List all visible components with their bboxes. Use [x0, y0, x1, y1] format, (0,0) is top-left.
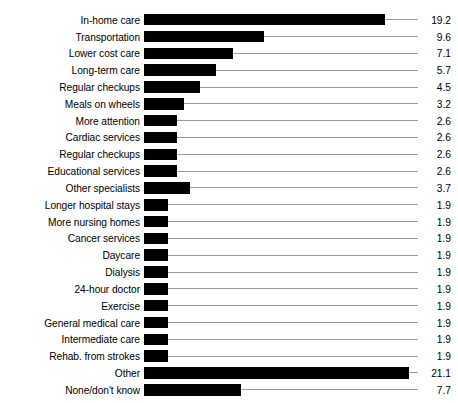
bar: [144, 132, 177, 144]
category-label: Daycare: [102, 250, 140, 261]
value-label: 3.7: [437, 182, 451, 193]
value-label: 2.6: [437, 115, 451, 126]
value-label: 1.9: [437, 300, 451, 311]
category-label: Educational services: [48, 166, 140, 177]
bar: [144, 31, 264, 43]
value-label: 1.9: [437, 283, 451, 294]
bar: [144, 216, 168, 228]
bar: [144, 199, 168, 211]
chart-row: Lower cost care7.1: [0, 45, 458, 62]
chart-row: Transportation9.6: [0, 28, 458, 45]
bar: [144, 283, 168, 295]
leader-line: [144, 204, 418, 205]
category-label: Dialysis: [105, 267, 140, 278]
chart-row: General medical care1.9: [0, 314, 458, 331]
chart-row: Long-term care5.7: [0, 62, 458, 79]
value-label: 1.9: [437, 199, 451, 210]
value-label: 3.2: [437, 98, 451, 109]
leader-line: [144, 221, 418, 222]
category-label: Regular checkups: [59, 82, 140, 93]
bar: [144, 334, 168, 346]
chart-row: Other specialists3.7: [0, 180, 458, 197]
value-label: 1.9: [437, 317, 451, 328]
chart-row: More attention2.6: [0, 112, 458, 129]
value-label: 1.9: [437, 250, 451, 261]
value-label: 9.6: [437, 31, 451, 42]
chart-row: Educational services2.6: [0, 163, 458, 180]
chart-row: Cardiac services2.6: [0, 129, 458, 146]
chart-row: Meals on wheels3.2: [0, 95, 458, 112]
chart-row: Daycare1.9: [0, 247, 458, 264]
value-label: 1.9: [437, 334, 451, 345]
leader-line: [144, 154, 418, 155]
bar: [144, 98, 184, 110]
value-label: 19.2: [431, 14, 451, 25]
chart-row: Intermediate care1.9: [0, 331, 458, 348]
value-label: 1.9: [437, 351, 451, 362]
category-label: None/don't know: [65, 384, 140, 395]
leader-line: [144, 103, 418, 104]
bar: [144, 149, 177, 161]
leader-line: [144, 339, 418, 340]
chart-row: Regular checkups2.6: [0, 146, 458, 163]
bar: [144, 233, 168, 245]
category-label: Long-term care: [72, 65, 140, 76]
chart-row: Dialysis1.9: [0, 264, 458, 281]
value-label: 7.7: [437, 384, 451, 395]
leader-line: [144, 305, 418, 306]
bar: [144, 384, 241, 396]
bar: [144, 249, 168, 261]
category-label: Meals on wheels: [65, 98, 140, 109]
category-label: More nursing homes: [48, 216, 140, 227]
leader-line: [144, 288, 418, 289]
leader-line: [144, 137, 418, 138]
bar: [144, 266, 168, 278]
bar: [144, 14, 385, 26]
value-label: 1.9: [437, 267, 451, 278]
value-label: 5.7: [437, 65, 451, 76]
chart-row: Cancer services1.9: [0, 230, 458, 247]
category-label: Regular checkups: [59, 149, 140, 160]
bar: [144, 64, 216, 76]
chart-row: None/don't know7.7: [0, 381, 458, 398]
chart-row: Longer hospital stays1.9: [0, 196, 458, 213]
chart-row: Regular checkups4.5: [0, 79, 458, 96]
category-label: In-home care: [81, 14, 140, 25]
horizontal-bar-chart: In-home care19.2Transportation9.6Lower c…: [0, 0, 458, 403]
value-label: 2.6: [437, 166, 451, 177]
category-label: 24-hour doctor: [74, 283, 140, 294]
value-label: 2.6: [437, 132, 451, 143]
leader-line: [144, 171, 418, 172]
value-label: 7.1: [437, 48, 451, 59]
bar: [144, 350, 168, 362]
category-label: Rehab. from strokes: [49, 351, 140, 362]
category-label: Other specialists: [66, 182, 140, 193]
bar: [144, 300, 168, 312]
value-label: 1.9: [437, 233, 451, 244]
category-label: Lower cost care: [69, 48, 140, 59]
leader-line: [144, 255, 418, 256]
bar: [144, 115, 177, 127]
category-label: More attention: [76, 115, 140, 126]
chart-row: In-home care19.2: [0, 11, 458, 28]
chart-row: Other21.1: [0, 365, 458, 382]
bar: [144, 48, 233, 60]
bar: [144, 182, 190, 194]
leader-line: [144, 120, 418, 121]
chart-row: Exercise1.9: [0, 297, 458, 314]
category-label: Longer hospital stays: [45, 199, 140, 210]
chart-row: 24-hour doctor1.9: [0, 280, 458, 297]
leader-line: [144, 272, 418, 273]
category-label: Transportation: [75, 31, 140, 42]
category-label: Cardiac services: [66, 132, 141, 143]
value-label: 2.6: [437, 149, 451, 160]
category-label: Cancer services: [68, 233, 140, 244]
leader-line: [144, 322, 418, 323]
leader-line: [144, 238, 418, 239]
category-label: Other: [115, 367, 140, 378]
bar: [144, 317, 168, 329]
bar: [144, 367, 409, 379]
value-label: 21.1: [431, 367, 451, 378]
chart-row: Rehab. from strokes1.9: [0, 348, 458, 365]
bar: [144, 81, 200, 93]
